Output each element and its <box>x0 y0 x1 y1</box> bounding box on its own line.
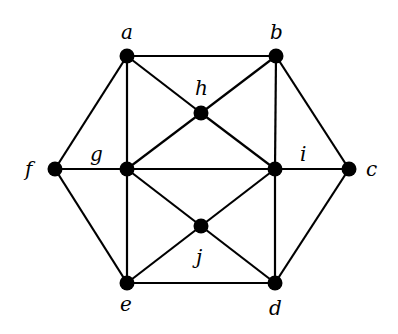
node-label-d: d <box>269 296 282 320</box>
graph-svg: abhfgicjed <box>0 0 398 334</box>
node-a <box>120 49 135 64</box>
edge-b-i <box>275 56 276 169</box>
node-label-f: f <box>23 157 36 181</box>
node-label-e: e <box>120 292 132 316</box>
node-e <box>120 276 135 291</box>
edge-h-g <box>127 113 201 169</box>
node-c <box>342 162 357 177</box>
node-d <box>268 276 283 291</box>
node-g <box>120 162 135 177</box>
edge-c-d <box>275 169 349 283</box>
node-h <box>194 106 209 121</box>
node-label-h: h <box>195 76 208 100</box>
node-label-a: a <box>121 20 133 44</box>
edge-j-d <box>201 226 275 283</box>
edge-a-h <box>127 56 201 113</box>
edge-j-e <box>127 226 201 283</box>
node-i <box>268 162 283 177</box>
node-label-b: b <box>270 20 283 44</box>
node-label-i: i <box>300 142 306 166</box>
node-j <box>194 219 209 234</box>
node-f <box>48 162 63 177</box>
edge-f-e <box>55 169 127 283</box>
node-label-j: j <box>192 245 202 269</box>
node-label-g: g <box>90 142 103 166</box>
graph-diagram: abhfgicjed <box>0 0 398 334</box>
node-label-c: c <box>366 157 377 181</box>
edge-g-j <box>127 169 201 226</box>
edge-b-h <box>201 56 276 113</box>
edge-j-i <box>201 169 275 226</box>
edge-h-i <box>201 113 275 169</box>
edge-b-c <box>276 56 349 169</box>
node-b <box>269 49 284 64</box>
